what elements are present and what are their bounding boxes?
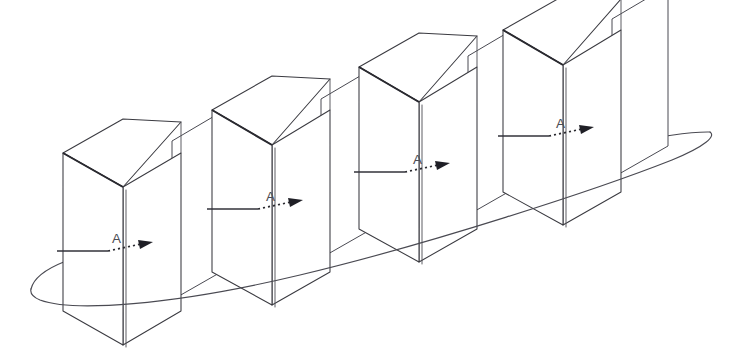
diagram-canvas: A A A A [0, 0, 744, 355]
unit-3-label-a: A [413, 152, 422, 167]
unit-2-box-right [272, 110, 330, 305]
unit-1-label-a: A [112, 231, 121, 246]
unit-2-label-a: A [266, 189, 275, 204]
unit-4-label-a: A [556, 116, 565, 131]
diagram-root: A A A A [0, 0, 744, 355]
unit-3-box-right [419, 67, 477, 262]
unit-1-box-right [123, 153, 181, 345]
